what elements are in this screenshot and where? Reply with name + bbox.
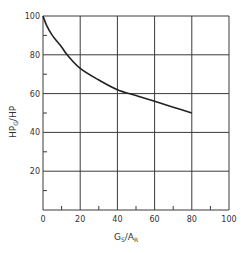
y-tick-label: 40 <box>30 128 40 137</box>
y-tick-label: 60 <box>30 90 40 99</box>
x-tick-label: 80 <box>187 215 197 224</box>
grid-lines <box>43 16 229 210</box>
x-axis-label: GS/AR <box>114 232 138 243</box>
y-axis-label: HPG/HP <box>8 105 19 138</box>
y-tick-labels: 20406080100 <box>25 12 40 176</box>
chart: 020406080100 20406080100 GS/AR HPG/HP <box>0 0 248 253</box>
x-tick-label: 60 <box>150 215 160 224</box>
y-tick-label: 100 <box>25 12 40 21</box>
y-tick-label: 80 <box>30 51 40 60</box>
x-tick-label: 0 <box>40 215 45 224</box>
x-tick-label: 20 <box>75 215 85 224</box>
y-tick-label: 20 <box>30 167 40 176</box>
minor-ticks <box>43 35 210 210</box>
x-tick-label: 40 <box>112 215 122 224</box>
x-tick-labels: 020406080100 <box>40 215 236 224</box>
x-tick-label: 100 <box>221 215 236 224</box>
